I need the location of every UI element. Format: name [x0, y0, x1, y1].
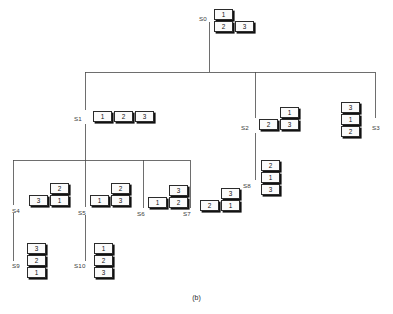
- tile-cell: 1: [280, 107, 299, 118]
- tile-cell: 1: [27, 267, 46, 278]
- tile-cell: 1: [90, 195, 109, 206]
- figure-caption: (b): [0, 294, 393, 301]
- tile-cell: 2: [94, 255, 113, 266]
- tile-cell: 1: [93, 111, 112, 122]
- state-label-s9: S9: [12, 263, 20, 269]
- state-label-s3: S3: [372, 125, 380, 131]
- state-label-s1: S1: [74, 116, 82, 122]
- tile-cell: 3: [135, 111, 154, 122]
- tree-edges: [0, 0, 393, 314]
- state-label-s5: S5: [78, 210, 86, 216]
- state-label-s10: S10: [74, 263, 86, 269]
- tile-cell: 3: [235, 21, 254, 32]
- tile-cell: 3: [94, 267, 113, 278]
- tile-cell: 3: [341, 102, 360, 113]
- tile-cell: 3: [29, 195, 48, 206]
- state-label-s6: S6: [137, 211, 145, 217]
- tile-cell: 3: [280, 119, 299, 130]
- tile-cell: 3: [27, 243, 46, 254]
- tile-cell: 2: [50, 183, 69, 194]
- tile-cell: 2: [27, 255, 46, 266]
- tile-cell: 1: [221, 200, 240, 211]
- tile-cell: 2: [200, 200, 219, 211]
- search-tree-diagram: S0123S1123S2123S3312S4231S5213S6312S7321…: [0, 0, 393, 314]
- tile-cell: 2: [114, 111, 133, 122]
- state-label-s7: S7: [183, 211, 191, 217]
- tile-cell: 1: [148, 197, 167, 208]
- tile-cell: 2: [111, 183, 130, 194]
- tile-cell: 1: [341, 114, 360, 125]
- tile-cell: 1: [261, 172, 280, 183]
- tile-cell: 2: [214, 21, 233, 32]
- tile-cell: 2: [341, 126, 360, 137]
- state-label-s2: S2: [241, 125, 249, 131]
- state-label-s0: S0: [199, 16, 207, 22]
- tile-cell: 3: [261, 184, 280, 195]
- tile-cell: 2: [169, 197, 188, 208]
- tile-cell: 1: [50, 195, 69, 206]
- tile-cell: 1: [94, 243, 113, 254]
- tile-cell: 3: [111, 195, 130, 206]
- state-label-s4: S4: [12, 208, 20, 214]
- tile-cell: 2: [261, 160, 280, 171]
- state-label-s8: S8: [243, 183, 251, 189]
- tile-cell: 3: [169, 185, 188, 196]
- tile-cell: 3: [221, 188, 240, 199]
- tile-cell: 2: [259, 119, 278, 130]
- tile-cell: 1: [214, 9, 233, 20]
